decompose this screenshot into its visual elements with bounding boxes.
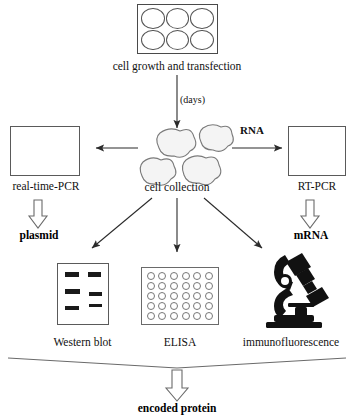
elisa-well [147,312,155,320]
plate-well [190,8,214,29]
blot-band [65,289,80,294]
western-blot-caption: Western blot [30,336,135,348]
plate-well [166,8,190,29]
elisa-well [205,272,213,280]
elisa-well [182,272,190,280]
elisa-well [147,302,155,310]
blot-band [88,272,101,277]
elisa-well [147,282,155,290]
mrna-output-label: mRNA [274,229,348,241]
blot-band [65,306,79,310]
elisa-well [193,272,201,280]
blot-band [89,304,102,307]
encoded-protein-label: encoded protein [0,402,354,414]
elisa-well [205,282,213,290]
blot-band [65,272,79,277]
western-blot-panel [57,263,109,325]
elisa-well [205,292,213,300]
convergence-line [8,358,346,368]
elisa-well [182,292,190,300]
elisa-well [158,272,166,280]
elisa-well [193,282,201,290]
elisa-well [158,312,166,320]
elisa-well [158,292,166,300]
plate-well [166,30,190,51]
elisa-well [170,302,178,310]
elisa-well [158,302,166,310]
realtime-pcr-panel [10,126,80,176]
cell-collection-caption: cell collection [122,181,232,193]
realtime-pcr-caption: real-time-PCR [0,180,92,192]
rna-branch-label: RNA [240,124,264,136]
elisa-well [182,302,190,310]
elisa-well [170,312,178,320]
cell-cluster-icon [140,125,233,186]
elisa-well [193,312,201,320]
elisa-panel [141,267,219,325]
diagram-canvas: cell growth and transfection (days) real… [0,0,354,418]
elisa-well [182,282,190,290]
elisa-well [193,302,201,310]
six-well-plate [137,4,218,54]
elisa-caption: ELISA [140,336,220,348]
elisa-well [170,282,178,290]
hollow-arrow-mrna [301,200,319,228]
incubation-label: (days) [180,94,240,105]
elisa-well [193,292,201,300]
elisa-well [182,312,190,320]
elisa-well [205,302,213,310]
plate-well [141,30,165,51]
elisa-well [147,272,155,280]
elisa-well [170,292,178,300]
blot-band [89,292,102,296]
elisa-well [147,292,155,300]
cell-growth-caption: cell growth and transfection [0,60,354,72]
rt-pcr-panel [288,126,346,176]
plate-well [190,30,214,51]
elisa-well [170,272,178,280]
arrow-cells-to-immunofluorescence [204,198,262,248]
immunofluorescence-caption: immunofluorescence [228,336,354,348]
hollow-arrow-plasmid [29,200,47,228]
plasmid-output-label: plasmid [0,229,78,241]
elisa-well [205,312,213,320]
rt-pcr-caption: RT-PCR [280,180,354,192]
hollow-arrow-encoded-protein [166,370,188,401]
elisa-well [158,282,166,290]
microscope-icon [266,253,329,328]
plate-well [141,8,165,29]
arrow-cells-to-western-blot [92,198,152,248]
